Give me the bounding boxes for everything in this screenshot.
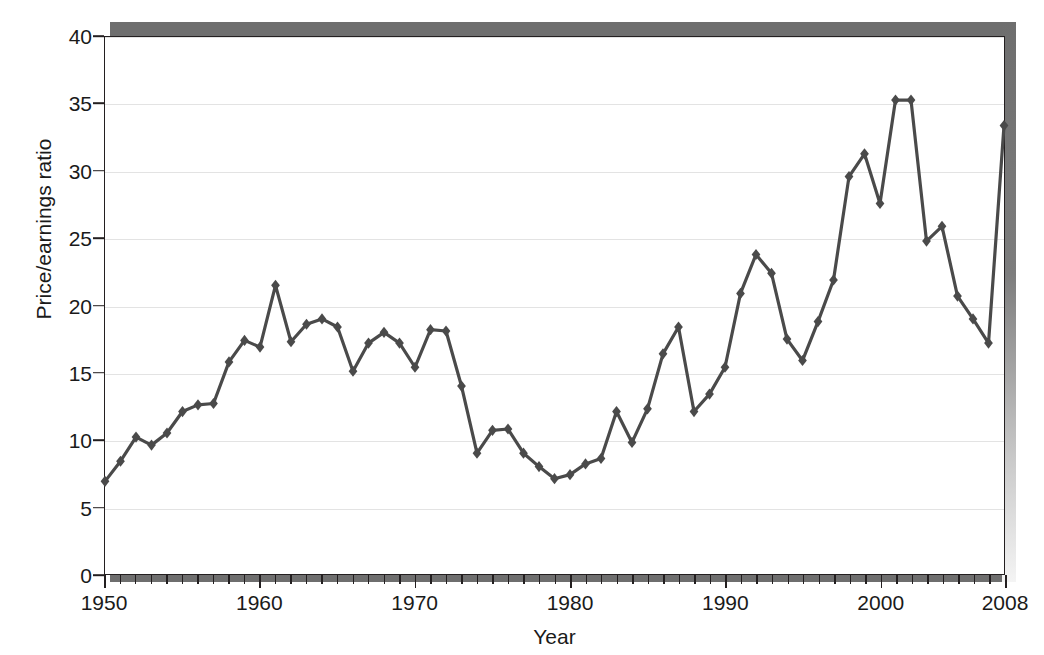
x-axis-tick-labels: 1950196019701980199020002008	[104, 592, 1005, 618]
cropped-caption-remnant	[0, 0, 1044, 11]
data-point-marker	[876, 198, 885, 209]
x-axis-minor-tick	[461, 575, 462, 584]
x-axis-tick-label: 1980	[547, 592, 594, 613]
y-axis-tick-mark	[93, 574, 104, 576]
x-axis-minor-tick	[694, 575, 695, 584]
x-axis-tick-label: 1960	[236, 592, 283, 613]
y-axis-tick-mark	[93, 305, 104, 307]
x-axis-minor-tick	[850, 575, 851, 584]
x-axis-tick-marks	[104, 575, 1005, 588]
x-axis-minor-tick	[756, 575, 757, 584]
y-axis-tick-label: 20	[69, 295, 92, 316]
x-axis-tick-label: 1950	[81, 592, 128, 613]
x-axis-minor-tick	[803, 575, 804, 584]
price-earnings-line-series	[105, 37, 1004, 574]
data-point-marker	[256, 342, 265, 353]
x-axis-minor-tick	[446, 575, 447, 584]
data-point-marker	[907, 95, 916, 106]
y-axis-tick-label: 35	[69, 93, 92, 114]
y-axis-tick-mark	[93, 103, 104, 105]
x-axis-minor-tick	[353, 575, 354, 584]
x-axis-minor-tick	[244, 575, 245, 584]
x-axis-major-tick	[570, 575, 572, 588]
y-axis-tick-mark	[93, 439, 104, 441]
data-point-marker	[194, 399, 203, 410]
x-axis-minor-tick	[399, 575, 400, 584]
x-axis-minor-tick	[290, 575, 291, 584]
x-axis-title: Year	[104, 625, 1005, 649]
x-axis-major-tick	[259, 575, 261, 588]
x-axis-minor-tick	[430, 575, 431, 584]
data-point-marker	[271, 280, 280, 291]
price-earnings-ratio-figure: 0510152025303540 Price/earnings ratio 19…	[0, 0, 1044, 655]
x-axis-minor-tick	[679, 575, 680, 584]
x-axis-minor-tick	[958, 575, 959, 584]
y-axis-tick-mark	[93, 35, 104, 37]
y-axis-tick-label: 40	[69, 26, 92, 47]
y-axis-tick-label: 30	[69, 160, 92, 181]
x-axis-minor-tick	[819, 575, 820, 584]
y-axis-tick-label: 15	[69, 362, 92, 383]
x-axis-minor-tick	[586, 575, 587, 584]
y-axis-tick-mark	[93, 372, 104, 374]
data-point-marker	[891, 95, 900, 106]
x-axis-minor-tick	[337, 575, 338, 584]
x-axis-minor-tick	[182, 575, 183, 584]
x-axis-minor-tick	[974, 575, 975, 584]
y-axis-tick-marks	[93, 36, 104, 575]
x-axis-minor-tick	[710, 575, 711, 584]
x-axis-minor-tick	[197, 575, 198, 584]
y-axis-tick-label: 5	[80, 497, 92, 518]
x-axis-tick-label: 2000	[857, 592, 904, 613]
x-axis-minor-tick	[508, 575, 509, 584]
x-axis-minor-tick	[384, 575, 385, 584]
x-axis-minor-tick	[120, 575, 121, 584]
x-axis-minor-tick	[368, 575, 369, 584]
x-axis-major-tick	[104, 575, 106, 588]
x-axis-minor-tick	[632, 575, 633, 584]
x-axis-tick-label: 1990	[702, 592, 749, 613]
x-axis-minor-tick	[135, 575, 136, 584]
x-axis-minor-tick	[663, 575, 664, 584]
x-axis-tick-label: 1970	[391, 592, 438, 613]
x-axis-minor-tick	[834, 575, 835, 584]
y-axis-tick-mark	[93, 507, 104, 509]
x-axis-minor-tick	[523, 575, 524, 584]
x-axis-minor-tick	[912, 575, 913, 584]
x-axis-minor-tick	[492, 575, 493, 584]
x-axis-major-tick	[725, 575, 727, 588]
series-line	[105, 100, 1004, 481]
x-axis-minor-tick	[865, 575, 866, 584]
y-axis-tick-label: 10	[69, 430, 92, 451]
x-axis-minor-tick	[275, 575, 276, 584]
plot-area	[104, 36, 1005, 575]
y-axis-tick-mark	[93, 170, 104, 172]
x-axis-minor-tick	[477, 575, 478, 584]
x-axis-minor-tick	[741, 575, 742, 584]
x-axis-minor-tick	[648, 575, 649, 584]
x-axis-minor-tick	[617, 575, 618, 584]
data-point-marker	[457, 380, 466, 391]
x-axis-major-tick	[881, 575, 883, 588]
x-axis-tick-label: 2008	[982, 592, 1029, 613]
x-axis-minor-tick	[539, 575, 540, 584]
x-axis-minor-tick	[166, 575, 167, 584]
x-axis-minor-tick	[943, 575, 944, 584]
x-axis-minor-tick	[321, 575, 322, 584]
x-axis-minor-tick	[788, 575, 789, 584]
x-axis-minor-tick	[927, 575, 928, 584]
x-axis-minor-tick	[772, 575, 773, 584]
x-axis-minor-tick	[601, 575, 602, 584]
x-axis-minor-tick	[989, 575, 990, 584]
x-axis-minor-tick	[896, 575, 897, 584]
x-axis-minor-tick	[151, 575, 152, 584]
x-axis-major-tick	[415, 575, 417, 588]
x-axis-minor-tick	[213, 575, 214, 584]
y-axis-tick-label: 25	[69, 228, 92, 249]
x-axis-minor-tick	[228, 575, 229, 584]
data-point-marker	[318, 313, 327, 324]
x-axis-minor-tick	[306, 575, 307, 584]
x-axis-major-tick	[1005, 575, 1007, 588]
data-point-marker	[442, 325, 451, 336]
y-axis-title: Price/earnings ratio	[32, 99, 56, 359]
